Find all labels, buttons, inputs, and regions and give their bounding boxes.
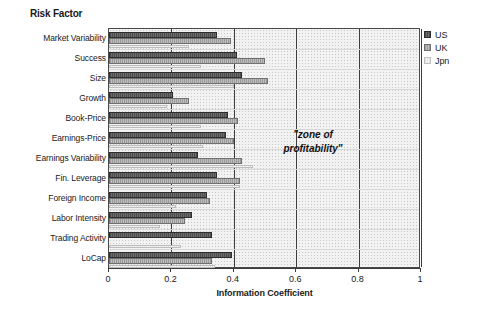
bar-jpn-fin-leverage [109, 185, 240, 188]
bar-uk-market-variability [109, 38, 231, 44]
bar-uk-size [109, 78, 268, 84]
category-label-foreign-income: Foreign Income [2, 193, 106, 203]
x-tick-mark-0.4 [233, 268, 234, 272]
bar-uk-fin-leverage [109, 178, 240, 184]
bar-jpn-earnings-variability [109, 165, 253, 168]
bar-us-growth [109, 92, 173, 98]
x-tick-label-0.8: 0.8 [343, 274, 373, 284]
bar-uk-book-price [109, 118, 238, 124]
bar-jpn-market-variability [109, 45, 189, 48]
bar-jpn-book-price [109, 125, 201, 128]
information-coefficient-bar-chart: Risk Factor Market VariabilitySuccessSiz… [0, 0, 482, 315]
gridline-1 [421, 29, 422, 267]
category-separator [109, 189, 419, 190]
category-separator [109, 169, 419, 170]
bar-uk-labor-intensity [109, 218, 185, 224]
x-tick-label-0.4: 0.4 [218, 274, 248, 284]
gridline-0.4 [234, 29, 235, 267]
bar-us-trading-activity [109, 232, 212, 238]
bar-us-book-price [109, 112, 228, 118]
category-separator [109, 229, 419, 230]
bar-uk-foreign-income [109, 198, 210, 204]
category-label-size: Size [2, 73, 106, 83]
annotation-line-2: profitability" [258, 142, 368, 156]
category-separator [109, 109, 419, 110]
category-label-market-variability: Market Variability [2, 33, 106, 43]
legend-item-us[interactable]: US [424, 29, 478, 40]
x-axis-line [108, 268, 421, 269]
x-tick-label-0: 0 [93, 274, 123, 284]
category-label-trading-activity: Trading Activity [2, 233, 106, 243]
bar-us-market-variability [109, 32, 217, 38]
us-swatch-icon [424, 31, 431, 38]
category-separator [109, 69, 419, 70]
legend: USUKJpn [424, 29, 478, 68]
bar-jpn-success [109, 65, 201, 68]
bar-jpn-trading-activity [109, 245, 181, 248]
bar-us-size [109, 72, 242, 78]
bar-jpn-growth [109, 105, 167, 108]
legend-item-jpn[interactable]: Jpn [424, 55, 478, 66]
bar-us-fin-leverage [109, 172, 217, 178]
bar-uk-earnings-price [109, 138, 234, 144]
chart-title: Risk Factor [30, 8, 82, 19]
bar-jpn-labor-intensity [109, 225, 160, 228]
category-label-earnings-price: Earnings-Price [2, 133, 106, 143]
category-label-success: Success [2, 53, 106, 63]
legend-label-us: US [435, 30, 447, 40]
category-label-locap: LoCap [2, 253, 106, 263]
category-label-labor-intensity: Labor Intensity [2, 213, 106, 223]
bar-us-earnings-variability [109, 152, 198, 158]
bar-us-success [109, 52, 237, 58]
jpn-swatch-icon [424, 57, 431, 64]
category-label-earnings-variability: Earnings Variability [2, 153, 106, 163]
bar-jpn-earnings-price [109, 145, 203, 148]
x-tick-label-1: 1 [405, 274, 435, 284]
bar-jpn-size [109, 85, 234, 88]
category-label-book-price: Book-Price [2, 113, 106, 123]
category-axis-labels: Market VariabilitySuccessSizeGrowthBook-… [0, 28, 106, 268]
category-separator [109, 49, 419, 50]
bar-jpn-foreign-income [109, 205, 176, 208]
bar-uk-earnings-variability [109, 158, 242, 164]
x-tick-mark-0 [108, 268, 109, 272]
x-axis-title: Information Coefficient [108, 288, 421, 298]
bar-uk-locap [109, 258, 212, 264]
bar-us-foreign-income [109, 192, 207, 198]
bar-uk-growth [109, 98, 189, 104]
x-tick-mark-0.8 [358, 268, 359, 272]
category-separator [109, 209, 419, 210]
annotation-line-1: "zone of [258, 128, 368, 142]
x-tick-mark-1 [420, 268, 421, 272]
x-tick-label-0.2: 0.2 [155, 274, 185, 284]
bar-uk-success [109, 58, 265, 64]
category-label-fin-leverage: Fin. Leverage [2, 173, 106, 183]
zone-of-profitability-annotation: "zone of profitability" [258, 128, 368, 156]
x-tick-mark-0.2 [170, 268, 171, 272]
legend-item-uk[interactable]: UK [424, 42, 478, 53]
bar-us-labor-intensity [109, 212, 192, 218]
x-tick-label-0.6: 0.6 [280, 274, 310, 284]
category-separator [109, 249, 419, 250]
bar-us-earnings-price [109, 132, 226, 138]
x-tick-mark-0.6 [295, 268, 296, 272]
bar-us-locap [109, 252, 232, 258]
legend-label-uk: UK [435, 43, 447, 53]
legend-label-jpn: Jpn [435, 56, 449, 66]
category-separator [109, 89, 419, 90]
category-label-growth: Growth [2, 93, 106, 103]
uk-swatch-icon [424, 44, 431, 51]
